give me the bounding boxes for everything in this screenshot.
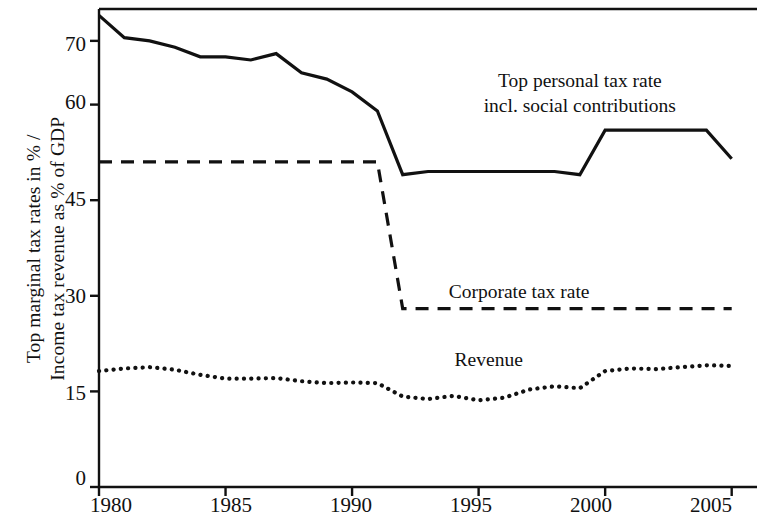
series-line-1 (99, 15, 732, 174)
chart-figure: Top marginal tax rates in % / Income tax… (0, 0, 757, 529)
data-series-group (99, 15, 732, 400)
series-line-2 (99, 162, 732, 309)
axis-frame (99, 9, 757, 487)
series-line-3 (99, 365, 732, 400)
plot-area (0, 0, 757, 529)
axis-ticks (90, 41, 732, 496)
